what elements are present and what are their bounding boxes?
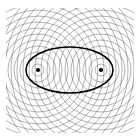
right-focus-point — [99, 68, 103, 72]
figure-root: ty=1 — [0, 0, 140, 140]
confocal-circles-figure — [0, 0, 140, 140]
left-focus-point — [36, 68, 40, 72]
